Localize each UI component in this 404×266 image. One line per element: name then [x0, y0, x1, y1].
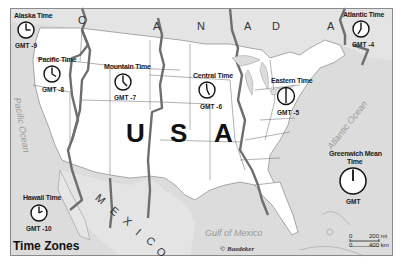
zone-name-gmt-line2: Time — [347, 158, 362, 165]
clock-icon-pacific — [42, 64, 62, 84]
clock-icon-hawaii — [29, 203, 49, 223]
time-zones-map: C A N A D A U S A M E X I C O Pacific Oc… — [0, 0, 404, 266]
zone-name-hawaii: Hawaii Time — [23, 194, 61, 201]
map-title: Time Zones — [13, 239, 79, 253]
clock-icon-mountain — [113, 72, 133, 92]
canada-letter-1: C — [78, 14, 86, 26]
canada-letter-6: A — [327, 20, 334, 32]
canada-letter-2: A — [153, 20, 160, 32]
clock-icon-alaska — [16, 20, 36, 40]
scale-lines — [349, 239, 389, 247]
usa-letter-1: U — [126, 118, 145, 149]
clock-icon-atlantic — [351, 19, 371, 39]
map-credit: © Baedeker — [220, 245, 254, 253]
clock-icon-gmt — [338, 166, 368, 196]
usa-letter-3: A — [214, 118, 233, 149]
zone-offset-eastern: GMT -5 — [277, 109, 299, 116]
zone-name-mountain: Mountain Time — [104, 63, 151, 70]
usa-letter-2: S — [170, 118, 187, 149]
zone-name-atlantic: Atlantic Time — [343, 11, 384, 18]
zone-name-central: Central Time — [193, 72, 233, 79]
zone-offset-pacific: GMT -8 — [42, 86, 64, 93]
zone-name-gmt-line1: Greenwich Mean — [329, 150, 382, 157]
canada-letter-3: N — [197, 20, 205, 32]
zone-offset-hawaii: GMT -10 — [26, 225, 52, 232]
clock-icon-eastern — [276, 85, 296, 107]
zone-offset-alaska: GMT -9 — [15, 42, 37, 49]
zone-offset-mountain: GMT -7 — [114, 94, 136, 101]
canada-letter-5: D — [272, 20, 280, 32]
canada-letter-4: A — [244, 20, 251, 32]
zone-name-eastern: Eastern Time — [271, 77, 312, 84]
zone-name-pacific: Pacific Time — [38, 56, 76, 63]
zone-name-alaska: Alaska Time — [14, 12, 53, 19]
zone-offset-gmt: GMT — [346, 198, 360, 205]
gulf-of-mexico-label: Gulf of Mexico — [205, 228, 263, 238]
clock-icon-central — [197, 80, 217, 100]
zone-offset-central: GMT -6 — [200, 103, 222, 110]
zone-offset-atlantic: GMT -4 — [352, 41, 374, 48]
